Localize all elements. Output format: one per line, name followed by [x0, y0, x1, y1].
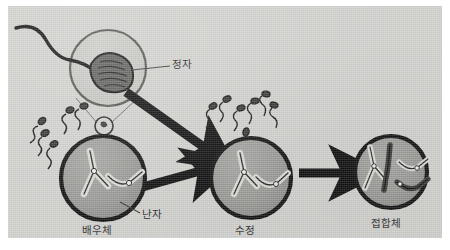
- label-egg: 난자: [142, 209, 162, 220]
- stage-fertilization: [206, 91, 291, 218]
- label-sperm: 정자: [172, 59, 192, 70]
- label-fertilization: 수정: [235, 225, 255, 236]
- screenshot-root: 정자 난자 배우체 수정 접합체: [0, 0, 450, 250]
- arrow-sperm-to-fertilization: [126, 92, 208, 150]
- label-zygote: 접합체: [371, 218, 402, 229]
- stage-gametophyte: [30, 102, 145, 220]
- stage-zygote: [355, 136, 428, 208]
- sperm-swarm-mid: [206, 91, 279, 137]
- label-gametophyte: 배우체: [82, 225, 113, 236]
- fertilization-figure: 정자 난자 배우체 수정 접합체: [8, 6, 442, 238]
- diagram-canvas: [8, 6, 442, 238]
